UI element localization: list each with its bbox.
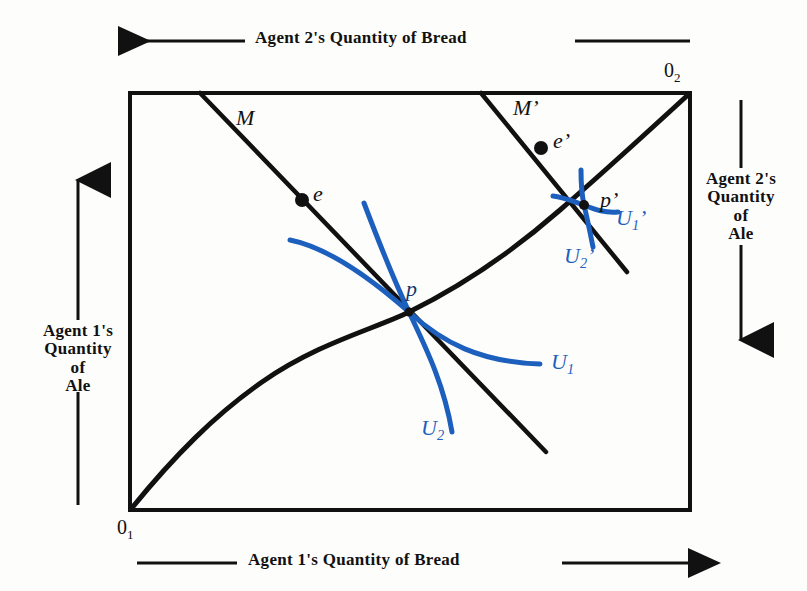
indifference-label-U2-prime-mark: ’ xyxy=(587,243,594,268)
right-axis-title-line-2: Quantity xyxy=(682,188,800,206)
indifference-label-U2-prime-sub: 2 xyxy=(580,255,587,271)
indifference-label-U1-prime-sub: 1 xyxy=(632,217,639,233)
right-axis-title: Agent 2's Quantity of Ale xyxy=(682,170,800,243)
indifference-label-U1-sub: 1 xyxy=(567,361,574,377)
origin-label-2-sub: 2 xyxy=(674,70,681,85)
left-axis-title: Agent 1's Quantity of Ale xyxy=(16,322,140,395)
equilibrium-point-p-prime xyxy=(579,200,589,210)
indifference-label-U1-text: U xyxy=(551,349,567,374)
indifference-label-U1: U1 xyxy=(551,349,574,378)
left-axis-title-line-3: of xyxy=(16,359,140,377)
indifference-label-U2: U2 xyxy=(421,415,444,444)
endowment-label-e: e xyxy=(313,181,323,207)
budget-line-M xyxy=(200,93,546,452)
endowment-point-e xyxy=(295,193,309,207)
indifference-label-U2-prime-text: U xyxy=(564,243,580,268)
edgeworth-box-figure: Agent 2's Quantity of Bread Agent 1's Qu… xyxy=(0,0,807,591)
right-axis-title-line-1: Agent 2's xyxy=(682,170,800,188)
equilibrium-label-p: p xyxy=(406,276,417,302)
budget-line-M-label: M xyxy=(236,105,254,131)
left-axis-title-line-4: Ale xyxy=(16,377,140,395)
origin-label-1-sub: 1 xyxy=(127,527,134,542)
bottom-axis-title: Agent 1's Quantity of Bread xyxy=(248,551,460,569)
indifference-label-U1-prime: U1’ xyxy=(616,205,646,234)
indifference-label-U2-text: U xyxy=(421,415,437,440)
origin-label-1-text: 0 xyxy=(117,516,127,538)
indifference-label-U1-prime-text: U xyxy=(616,205,632,230)
equilibrium-point-p xyxy=(405,308,414,317)
top-axis-title: Agent 2's Quantity of Bread xyxy=(255,29,467,47)
left-axis-title-line-2: Quantity xyxy=(16,340,140,358)
budget-line-M-prime xyxy=(481,93,627,272)
endowment-point-e-prime xyxy=(534,141,548,155)
endowment-label-e-prime: e’ xyxy=(553,128,570,154)
diagram-canvas xyxy=(0,0,807,591)
origin-label-1: 01 xyxy=(117,516,134,543)
right-axis-title-line-3: of xyxy=(682,207,800,225)
indifference-label-U2-sub: 2 xyxy=(437,427,444,443)
indifference-label-U1-prime-mark: ’ xyxy=(639,205,646,230)
origin-label-2-text: 0 xyxy=(664,59,674,81)
origin-label-2: 02 xyxy=(664,59,681,86)
indifference-curve-U2 xyxy=(364,203,452,432)
indifference-label-U2-prime: U2’ xyxy=(564,243,594,272)
left-axis-title-line-1: Agent 1's xyxy=(16,322,140,340)
budget-line-M-prime-label: M’ xyxy=(513,95,539,121)
right-axis-title-line-4: Ale xyxy=(682,225,800,243)
